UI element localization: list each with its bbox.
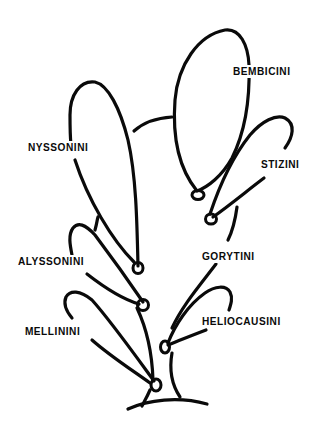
taxon-label-stizini: STIZINI [260,158,300,171]
nyssonini-alyssonini-stub [95,217,98,230]
bembicini-node [192,191,204,200]
taxon-label-gorytini: GORYTINI [201,250,256,263]
taxon-label-alyssonini: ALYSSONINI [17,255,85,268]
base-ground-arc [128,400,207,409]
taxon-label-bembicini: BEMBICINI [232,65,291,78]
taxon-label-nyssonini: NYSSONINI [27,141,89,154]
mellinini-node [151,379,161,391]
bembicini-branch [174,30,249,191]
heliocausini-node [161,341,170,353]
taxon-label-mellinini: MELLININI [24,325,81,338]
main-trunk-right [171,353,180,397]
taxon-label-heliocausini: HELIOCAUSINI [201,315,282,328]
gorytini-branch [228,207,237,240]
alyssonini-branch-lower [87,274,139,304]
stizini-node [206,214,217,224]
nyssonini-bembicini-connector [134,117,172,131]
